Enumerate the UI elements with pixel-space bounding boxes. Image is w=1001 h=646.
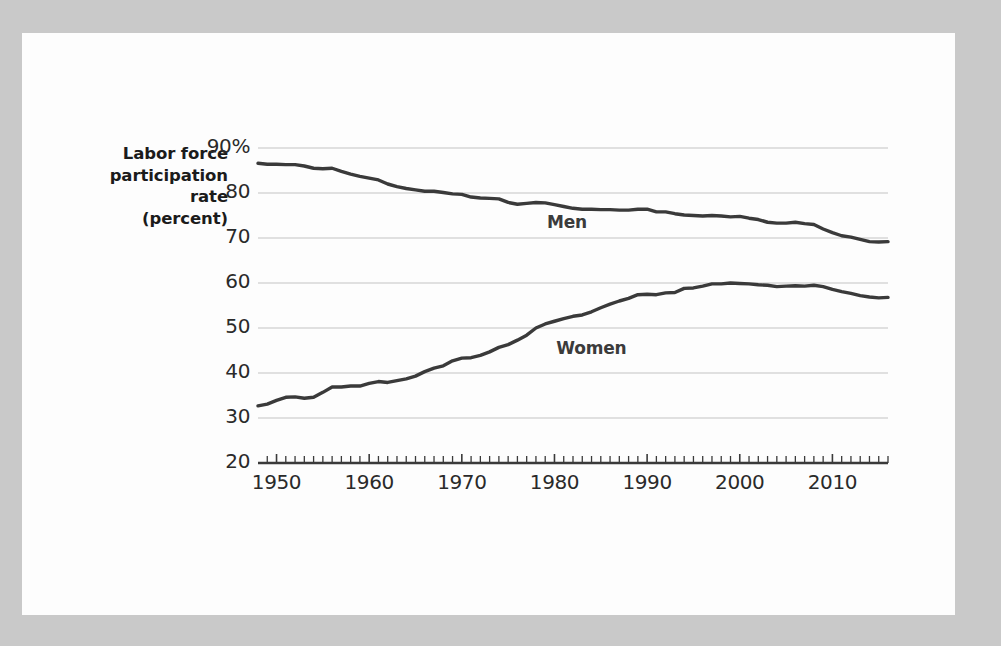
x-tick-label-1980: 1980 [509, 470, 599, 494]
chart-area: Labor force participation rate (percent)… [22, 33, 955, 615]
x-tick-label-2000: 2000 [695, 470, 785, 494]
y-tick-label-40: 40 [172, 359, 250, 383]
x-tick-label-1950: 1950 [232, 470, 322, 494]
y-tick-label-30: 30 [172, 404, 250, 428]
series-annotation-men: Men [547, 212, 587, 232]
series-annotation-women: Women [556, 338, 626, 358]
figure-page: Labor force participation rate (percent)… [22, 33, 955, 615]
y-tick-label-60: 60 [172, 269, 250, 293]
x-tick-label-1960: 1960 [324, 470, 414, 494]
x-tick-label-2010: 2010 [787, 470, 877, 494]
y-tick-label-80: 80 [172, 179, 250, 203]
x-tick-label-1990: 1990 [602, 470, 692, 494]
x-tick-marks-group [267, 454, 888, 463]
plot-svg [22, 33, 955, 615]
x-tick-label-1970: 1970 [417, 470, 507, 494]
gridlines-group [258, 148, 888, 418]
series-paths-group [258, 163, 888, 406]
y-tick-label-70: 70 [172, 224, 250, 248]
y-tick-label-90: 90% [172, 134, 250, 158]
y-tick-label-50: 50 [172, 314, 250, 338]
